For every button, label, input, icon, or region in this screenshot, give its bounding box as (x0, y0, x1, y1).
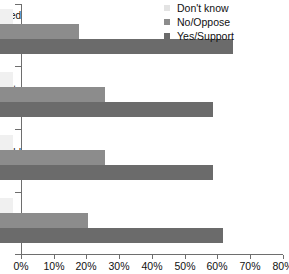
legend-label: Don't know (177, 2, 229, 14)
y-axis-tick (15, 129, 21, 130)
bar-no-oppose (0, 24, 79, 39)
bar-dont-know (0, 9, 13, 24)
legend-swatch-icon (164, 19, 170, 25)
bar-chart: ed g d ity uld (0, 0, 289, 274)
x-axis-tick (250, 255, 251, 259)
x-axis-label: 40% (141, 260, 162, 272)
bar-dont-know (0, 72, 13, 87)
x-axis-tick (283, 255, 284, 259)
x-axis-tick (152, 255, 153, 259)
legend-label: No/Oppose (177, 16, 230, 28)
x-axis-tick (119, 255, 120, 259)
y-axis-tick (15, 4, 21, 5)
x-axis-label: 20% (75, 260, 96, 272)
x-axis-label: 30% (108, 260, 129, 272)
legend-item-no-oppose: No/Oppose (164, 16, 234, 28)
bar-no-oppose (0, 87, 105, 102)
bar-yes-support (0, 102, 213, 117)
x-axis-label: 10% (43, 260, 64, 272)
legend-swatch-icon (164, 5, 170, 11)
bar-dont-know (0, 135, 13, 150)
y-axis-tick (15, 66, 21, 67)
legend-item-yes-support: Yes/Support (164, 30, 234, 42)
x-axis-tick (185, 255, 186, 259)
bar-no-oppose (0, 150, 105, 165)
x-axis-label: 70% (239, 260, 260, 272)
bar-dont-know (0, 198, 13, 213)
bar-no-oppose (0, 213, 88, 228)
x-axis-label: 60% (206, 260, 227, 272)
x-axis-tick (54, 255, 55, 259)
x-axis-label: 80% (272, 260, 289, 272)
x-axis-label: 50% (174, 260, 195, 272)
legend-item-dont-know: Don't know (164, 2, 234, 14)
x-axis-label: 0% (13, 260, 28, 272)
x-axis-tick (21, 255, 22, 259)
legend-swatch-icon (164, 33, 170, 39)
y-axis-tick (15, 192, 21, 193)
bar-yes-support (0, 228, 223, 243)
legend: Don't know No/Oppose Yes/Support (164, 2, 234, 44)
bar-yes-support (0, 165, 213, 180)
x-axis-tick (217, 255, 218, 259)
legend-label: Yes/Support (177, 30, 234, 42)
x-axis-tick (86, 255, 87, 259)
